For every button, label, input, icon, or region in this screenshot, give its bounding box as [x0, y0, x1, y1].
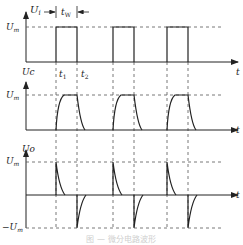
ui-t-axis-label: t — [236, 67, 240, 77]
t2-label: t2 — [81, 69, 89, 80]
ui-pulses — [56, 27, 188, 62]
ui-label: Ui — [30, 4, 41, 17]
uo-chart: Uo Um −Um t — [2, 144, 240, 233]
uo-t-axis-label: t — [236, 190, 240, 200]
ui-um-label: Um — [6, 22, 20, 33]
uo-neg-um-label: −Um — [2, 222, 23, 233]
waveform-diagram: Ui tW Um t Uc Um t1 t2 t Uo Um −Um t 图 —… — [0, 0, 243, 245]
uo-label: Uo — [22, 144, 36, 154]
uc-label: Uc — [22, 67, 35, 77]
uc-um-label: Um — [6, 90, 20, 101]
uc-t-axis-label: t — [236, 125, 240, 135]
ui-chart: Ui tW Um t — [6, 4, 240, 77]
figure-caption: 图 — 微分电路波形 — [86, 234, 155, 244]
time-guide-lines — [56, 62, 188, 228]
tw-label: tW — [61, 7, 72, 18]
uc-chart: Uc Um t1 t2 t — [6, 67, 240, 135]
uo-um-label: Um — [6, 156, 20, 167]
t1-label: t1 — [59, 69, 66, 80]
